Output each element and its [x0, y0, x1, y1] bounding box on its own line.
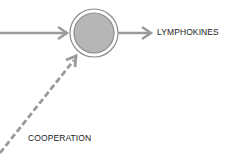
- lymphokines-label: LYMPHOKINES: [157, 27, 219, 37]
- input-arrow: [0, 27, 67, 39]
- cell-node: [70, 9, 118, 57]
- output-arrow: [118, 27, 151, 39]
- diagram-canvas: LYMPHOKINES COOPERATION: [0, 0, 240, 156]
- cooperation-label: COOPERATION: [28, 133, 91, 143]
